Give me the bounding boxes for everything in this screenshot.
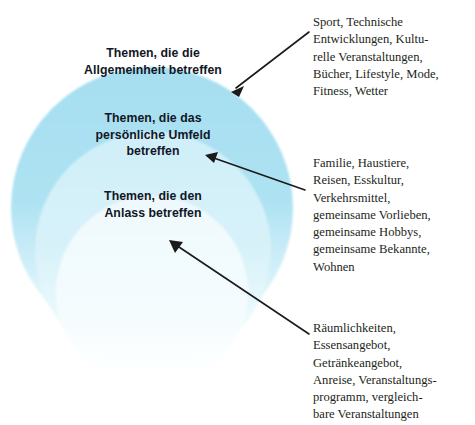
ring-inner-shape — [56, 196, 248, 388]
annotation-general-topics: Sport, Technische Entwicklungen, Kultu- … — [313, 14, 471, 100]
ring-label-middle: Themen, die das persönliche Umfeld betre… — [42, 110, 264, 160]
ring-label-outer: Themen, die die Allgemeinheit betreffen — [28, 45, 278, 78]
ring-label-inner: Themen, die den Anlass betreffen — [42, 188, 264, 221]
annotation-personal-environment-topics: Familie, Haustiere, Reisen, Esskultur, V… — [313, 155, 471, 276]
annotation-occasion-topics: Räumlichkeiten, Essensangebot, Getränkea… — [313, 320, 471, 424]
diagram-canvas: Themen, die die Allgemeinheit betreffen … — [0, 0, 475, 425]
